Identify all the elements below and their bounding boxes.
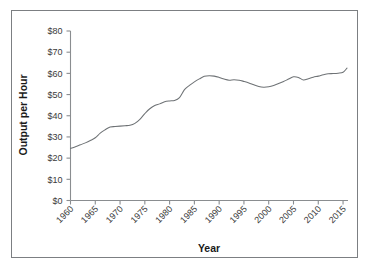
chart-frame [11, 10, 358, 258]
